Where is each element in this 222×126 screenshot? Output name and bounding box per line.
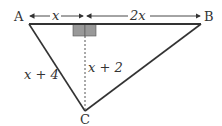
triangle-diagram: A B C x 2x x + 4 x + 2 [0, 0, 222, 126]
vertex-label-b: B [204, 9, 214, 24]
vertex-label-c: C [80, 112, 90, 126]
label-segment-x: x [52, 8, 60, 23]
right-angle-marker-left [73, 24, 85, 36]
label-segment-2x: 2x [129, 8, 146, 23]
label-side-ac: x + 4 [24, 67, 59, 82]
label-altitude: x + 2 [88, 60, 123, 75]
vertex-label-a: A [13, 9, 24, 24]
right-angle-marker-right [85, 24, 96, 36]
